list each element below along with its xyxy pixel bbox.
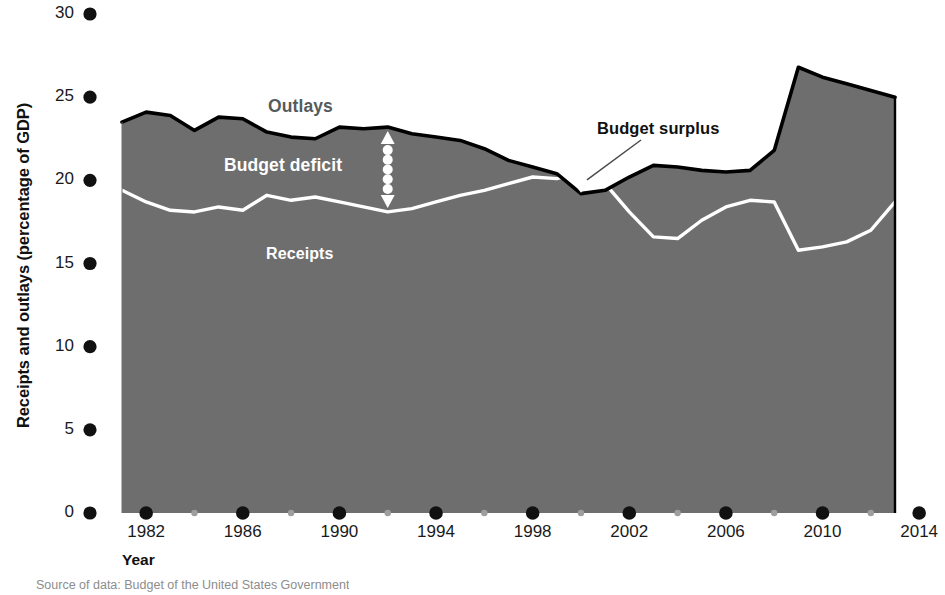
y-tick-label: 30	[40, 3, 74, 23]
x-axis-title: Year	[122, 551, 155, 569]
y-tick-label: 10	[40, 336, 74, 356]
y-tick-label: 15	[40, 253, 74, 273]
receipts-label: Receipts	[266, 245, 334, 263]
x-axis-minor-tick-dot	[385, 510, 391, 516]
x-axis-minor-tick-dot	[674, 510, 680, 516]
chart-figure: Receipts and outlays (percentage of GDP)…	[0, 0, 945, 595]
budget-deficit-label: Budget deficit	[224, 155, 342, 176]
x-tick-label: 1994	[406, 522, 466, 542]
x-axis-minor-tick-dot	[288, 510, 294, 516]
outlays-label: Outlays	[268, 96, 333, 117]
x-axis-tick-dot	[333, 506, 347, 520]
y-tick-label: 5	[40, 419, 74, 439]
y-axis-tick-dot	[83, 423, 96, 436]
plot-area	[0, 0, 945, 595]
budget-deficit-arrow	[381, 131, 395, 208]
x-axis-tick-dot	[526, 506, 540, 520]
x-axis-tick-dot	[236, 506, 250, 520]
x-tick-label: 2006	[696, 522, 756, 542]
y-axis-tick-dot	[83, 257, 96, 270]
y-axis-tick-dot	[83, 91, 96, 104]
x-axis-tick-dot	[912, 506, 926, 520]
budget-surplus-label: Budget surplus	[597, 119, 719, 138]
y-axis-tick-dot	[83, 340, 96, 353]
x-axis-tick-dot	[719, 506, 733, 520]
x-tick-label: 2010	[793, 522, 853, 542]
y-axis-tick-dot	[83, 174, 96, 187]
y-tick-label: 0	[40, 502, 74, 522]
x-axis-tick-dot	[622, 506, 636, 520]
y-tick-label: 25	[40, 86, 74, 106]
y-axis-tick-dot	[83, 7, 96, 20]
y-tick-label: 20	[40, 169, 74, 189]
x-axis-minor-tick-dot	[578, 510, 584, 516]
x-axis-minor-tick-dot	[481, 510, 487, 516]
x-axis-tick-dot	[816, 506, 830, 520]
x-tick-label: 2002	[599, 522, 659, 542]
x-tick-label: 1986	[213, 522, 273, 542]
x-axis-tick-dot	[139, 506, 153, 520]
x-tick-label: 1990	[309, 522, 369, 542]
x-axis-minor-tick-dot	[868, 510, 874, 516]
x-tick-label: 1982	[116, 522, 176, 542]
y-axis-tick-dot	[83, 506, 96, 519]
x-tick-label: 2014	[889, 522, 945, 542]
x-axis-tick-dot	[429, 506, 443, 520]
source-note: Source of data: Budget of the United Sta…	[36, 578, 349, 595]
x-tick-label: 1998	[503, 522, 563, 542]
x-axis-minor-tick-dot	[191, 510, 197, 516]
x-axis-minor-tick-dot	[771, 510, 777, 516]
